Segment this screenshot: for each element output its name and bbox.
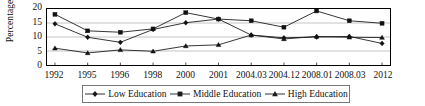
x-axis-tick-label: 1992 [45, 68, 64, 82]
data-point-low-education-1992 [53, 21, 57, 26]
triangle-marker-icon [264, 89, 286, 99]
data-point-middle-education-1996 [118, 30, 122, 34]
legend-item-high-education[interactable]: High Education [264, 89, 348, 99]
data-point-middle-education-2008.01 [315, 9, 319, 13]
x-axis-tick-label: 2004.03 [236, 68, 267, 82]
data-point-middle-education-1995 [86, 29, 90, 33]
line-chart: Percentages 20151050 1992199519961998200… [0, 0, 425, 106]
x-axis-tick-label: 1996 [110, 68, 129, 82]
y-axis-label: Percentages [5, 0, 15, 50]
data-point-middle-education-2008.03 [347, 19, 351, 23]
y-axis-tick-label: 20 [22, 3, 42, 13]
x-axis-tick-label: 2000 [176, 68, 195, 82]
data-point-middle-education-2000 [184, 11, 188, 15]
plot-svg [47, 9, 390, 65]
legend-label: High Education [288, 89, 348, 99]
x-axis-tick-label: 2008.01 [302, 68, 333, 82]
data-point-middle-education-2004.03 [249, 19, 253, 23]
y-axis-tick-label: 10 [22, 32, 42, 42]
data-point-middle-education-1998 [151, 27, 155, 31]
chart-legend: Low EducationMiddle EducationHigh Educat… [82, 85, 350, 103]
x-axis-tick-label: 1998 [143, 68, 162, 82]
data-point-middle-education-2001 [217, 17, 221, 21]
legend-label: Low Education [108, 89, 166, 99]
y-axis-tick-label: 0 [22, 61, 42, 71]
data-point-low-education-2000 [184, 20, 188, 25]
legend-item-middle-education[interactable]: Middle Education [169, 89, 261, 99]
plot-area [46, 8, 391, 66]
x-axis-tick-label: 2008.03 [335, 68, 366, 82]
x-axis-tick-label: 2001 [209, 68, 228, 82]
x-axis-tick-labels: 1992199519961998200020012004.032004.1220… [46, 68, 391, 82]
x-axis-tick-label: 1995 [77, 68, 96, 82]
diamond-marker-icon [84, 89, 106, 99]
data-point-high-education-1992 [53, 46, 58, 50]
y-axis-tick-label: 5 [22, 47, 42, 57]
data-point-middle-education-1992 [53, 12, 57, 16]
x-axis-tick-label: 2012 [374, 68, 393, 82]
square-marker-icon [169, 89, 191, 99]
x-axis-tick-label: 2004.12 [269, 68, 300, 82]
legend-label: Middle Education [193, 89, 261, 99]
data-point-low-education-1995 [85, 35, 89, 40]
y-axis-tick-label: 15 [22, 18, 42, 28]
legend-item-low-education[interactable]: Low Education [84, 89, 166, 99]
data-point-low-education-2012 [380, 41, 384, 46]
data-point-low-education-1996 [118, 40, 122, 45]
data-point-middle-education-2012 [380, 21, 384, 25]
data-point-middle-education-2004.12 [282, 25, 286, 29]
y-axis-tick-labels: 20151050 [20, 0, 42, 106]
